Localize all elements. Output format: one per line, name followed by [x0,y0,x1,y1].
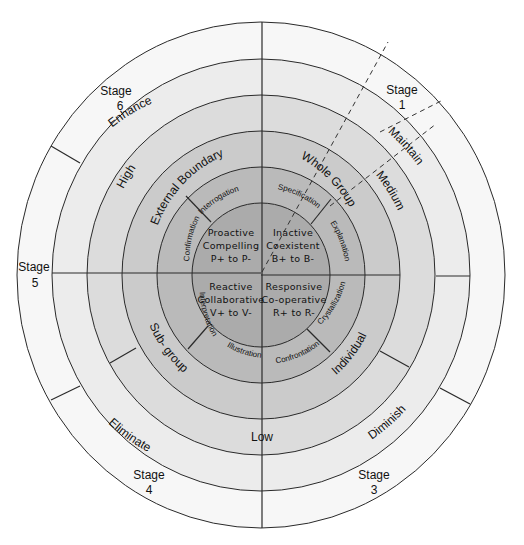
stage-1-word: Stage [386,83,418,97]
core-bottom-left-line1: Reactive [209,281,252,292]
core-bottom-right-line2: Co-operative [261,294,326,305]
core-top-right-line3: B+ to B- [272,253,314,264]
stage-1-num: 1 [399,98,406,112]
stage-3-word: Stage [358,468,390,482]
core-bottom-right-line3: R+ to R- [273,307,315,318]
label-low: Low [251,430,273,444]
stage-6-word: Stage [100,84,132,98]
core-top-left-line3: P+ to P- [211,253,252,264]
core-bottom-right-line1: Responsive [266,281,323,292]
core-top-right-line2: Coexistent [266,240,320,251]
stage-5-word: Stage [18,260,50,274]
stage-4-word: Stage [133,468,165,482]
core-bottom-left-line3: V+ to V- [210,307,252,318]
stage-4-num: 4 [146,483,153,497]
stage-6-num: 6 [117,99,124,113]
stage-3-num: 3 [371,483,378,497]
core-top-left-line1: Proactive [208,227,255,238]
core-top-right-line1: Inactive [273,227,313,238]
core-top-left-line2: Compelling [203,240,260,251]
stage-5-num: 5 [32,276,39,290]
circular-stage-diagram: Proactive Compelling P+ to P- Inactive C… [0,0,524,545]
